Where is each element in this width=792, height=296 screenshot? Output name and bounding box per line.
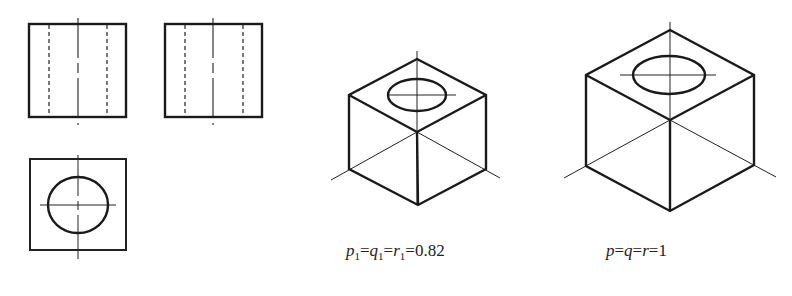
caption-simplified-coefficients: p1=q1=r1=0.82: [346, 241, 445, 262]
caption2-r: r: [642, 241, 649, 260]
top-view: [30, 155, 126, 259]
caption1-p: p: [346, 241, 355, 260]
cube1-front-vertical-edge: [417, 132, 418, 205]
cube1-right-axis: [417, 132, 500, 178]
cube1-left-axis: [331, 132, 417, 180]
caption2-q: q: [624, 241, 633, 260]
isometric-cube-simplified: [331, 51, 500, 205]
caption1-r: r: [393, 241, 400, 260]
caption2-eq: =: [649, 241, 659, 260]
caption1-eq: =: [384, 241, 394, 260]
side-view: [165, 18, 262, 125]
cube2-right-axis: [670, 120, 776, 177]
engineering-drawing-figure: p1=q1=r1=0.82 p=q=r=1: [0, 0, 792, 296]
caption1-value: 0.82: [415, 241, 445, 260]
caption2-value: 1: [658, 241, 667, 260]
caption2-eq: =: [633, 241, 643, 260]
caption-standard-coefficients: p=q=r=1: [606, 241, 667, 261]
isometric-cube-standard: [564, 22, 776, 211]
caption2-p: p: [606, 241, 615, 260]
front-view: [29, 18, 126, 125]
caption1-q: q: [370, 241, 379, 260]
caption1-eq: =: [405, 241, 415, 260]
cube2-left-axis: [564, 120, 670, 178]
caption1-eq: =: [360, 241, 370, 260]
caption2-eq: =: [615, 241, 625, 260]
